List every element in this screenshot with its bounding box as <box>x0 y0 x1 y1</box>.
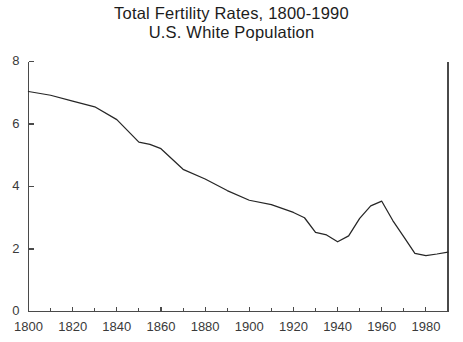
y-tick-label: 6 <box>12 116 19 131</box>
axis-spines <box>29 62 449 312</box>
y-tick-label: 4 <box>12 178 19 193</box>
chart-series <box>29 92 449 256</box>
x-tick-label: 1920 <box>279 319 308 334</box>
x-axis-tick-labels: 1800182018401860188019001920194019601980 <box>14 319 440 334</box>
x-tick-label: 1940 <box>323 319 352 334</box>
x-tick-label: 1960 <box>367 319 396 334</box>
y-tick-label: 2 <box>12 241 19 256</box>
y-tick-label: 8 <box>12 53 19 68</box>
y-axis-tick-labels: 02468 <box>12 53 19 318</box>
chart-axes <box>29 62 449 312</box>
x-tick-label: 1880 <box>191 319 220 334</box>
chart-ticks <box>29 62 449 312</box>
x-tick-label: 1860 <box>147 319 176 334</box>
y-tick-label: 0 <box>12 303 19 318</box>
line-chart-plot: 02468 1800182018401860188019001920194019… <box>0 0 463 342</box>
x-tick-label: 1900 <box>235 319 264 334</box>
x-tick-label: 1840 <box>102 319 131 334</box>
x-tick-label: 1980 <box>411 319 440 334</box>
x-tick-label: 1800 <box>14 319 43 334</box>
chart-figure: Total Fertility Rates, 1800-1990 U.S. Wh… <box>0 0 463 342</box>
series-line <box>29 92 449 256</box>
x-tick-label: 1820 <box>58 319 87 334</box>
